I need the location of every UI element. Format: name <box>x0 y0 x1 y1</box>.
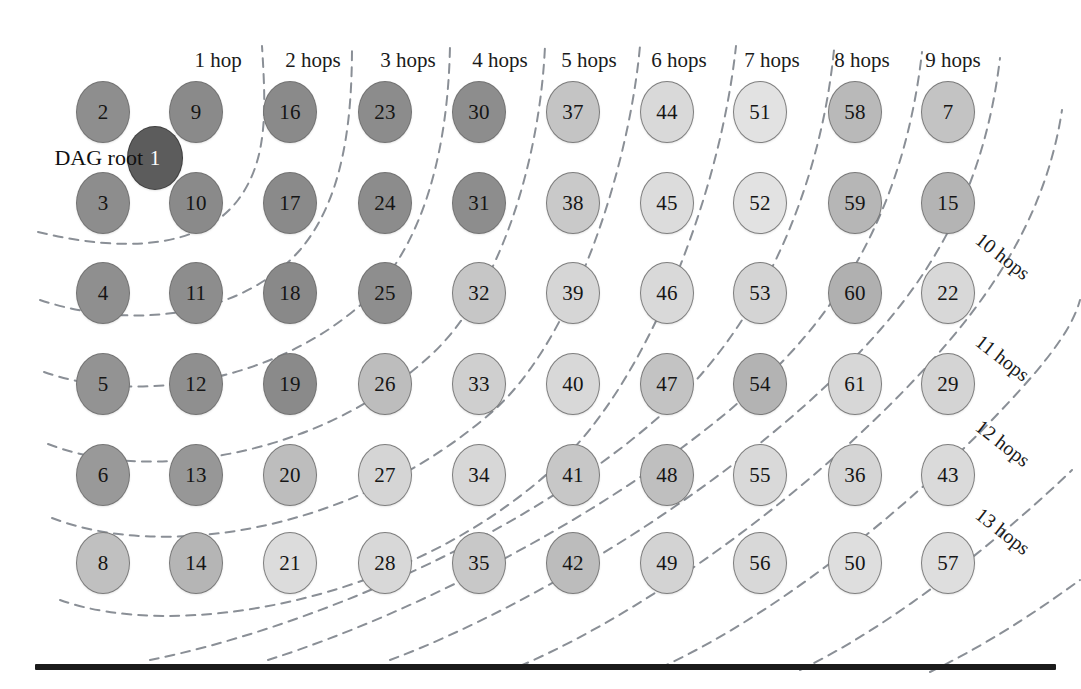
node-14[interactable]: 14 <box>169 532 223 594</box>
node-55[interactable]: 55 <box>733 444 787 506</box>
node-33[interactable]: 33 <box>452 353 506 415</box>
node-16[interactable]: 16 <box>263 81 317 143</box>
node-52[interactable]: 52 <box>733 172 787 234</box>
node-3[interactable]: 3 <box>76 172 130 234</box>
node-21[interactable]: 21 <box>263 532 317 594</box>
node-50[interactable]: 50 <box>828 532 882 594</box>
node-34[interactable]: 34 <box>452 444 506 506</box>
node-30[interactable]: 30 <box>452 81 506 143</box>
node-53[interactable]: 53 <box>733 262 787 324</box>
hop-label-4-hops: 4 hops <box>472 48 527 73</box>
node-19[interactable]: 19 <box>263 353 317 415</box>
node-48[interactable]: 48 <box>640 444 694 506</box>
node-11[interactable]: 11 <box>169 262 223 324</box>
node-36[interactable]: 36 <box>828 444 882 506</box>
node-59[interactable]: 59 <box>828 172 882 234</box>
node-23[interactable]: 23 <box>358 81 412 143</box>
node-9[interactable]: 9 <box>169 81 223 143</box>
node-47[interactable]: 47 <box>640 353 694 415</box>
node-25[interactable]: 25 <box>358 262 412 324</box>
node-51[interactable]: 51 <box>733 81 787 143</box>
hop-label-8-hops: 8 hops <box>834 48 889 73</box>
node-20[interactable]: 20 <box>263 444 317 506</box>
node-12[interactable]: 12 <box>169 353 223 415</box>
hop-label-3-hops: 3 hops <box>380 48 435 73</box>
node-44[interactable]: 44 <box>640 81 694 143</box>
node-18[interactable]: 18 <box>263 262 317 324</box>
hop-boundary-curves-layer <box>0 0 1081 689</box>
node-46[interactable]: 46 <box>640 262 694 324</box>
node-29[interactable]: 29 <box>921 353 975 415</box>
node-26[interactable]: 26 <box>358 353 412 415</box>
node-6[interactable]: 6 <box>76 444 130 506</box>
hop-label-6-hops: 6 hops <box>651 48 706 73</box>
node-42[interactable]: 42 <box>546 532 600 594</box>
node-7[interactable]: 7 <box>921 81 975 143</box>
hop-label-9-hops: 9 hops <box>925 48 980 73</box>
node-43[interactable]: 43 <box>921 444 975 506</box>
node-2[interactable]: 2 <box>76 81 130 143</box>
node-28[interactable]: 28 <box>358 532 412 594</box>
node-38[interactable]: 38 <box>546 172 600 234</box>
dag-root-caption: DAG root <box>54 145 143 171</box>
node-10[interactable]: 10 <box>169 172 223 234</box>
node-39[interactable]: 39 <box>546 262 600 324</box>
hop-label-7-hops: 7 hops <box>744 48 799 73</box>
node-13[interactable]: 13 <box>169 444 223 506</box>
hop-boundary-curve <box>520 110 1062 666</box>
node-41[interactable]: 41 <box>546 444 600 506</box>
node-58[interactable]: 58 <box>828 81 882 143</box>
node-22[interactable]: 22 <box>921 262 975 324</box>
hop-label-2-hops: 2 hops <box>285 48 340 73</box>
node-35[interactable]: 35 <box>452 532 506 594</box>
node-56[interactable]: 56 <box>733 532 787 594</box>
node-37[interactable]: 37 <box>546 81 600 143</box>
node-32[interactable]: 32 <box>452 262 506 324</box>
node-27[interactable]: 27 <box>358 444 412 506</box>
node-4[interactable]: 4 <box>76 262 130 324</box>
diagram-canvas: 2916233037445158731017243138455259154111… <box>0 0 1081 689</box>
node-31[interactable]: 31 <box>452 172 506 234</box>
node-5[interactable]: 5 <box>76 353 130 415</box>
node-45[interactable]: 45 <box>640 172 694 234</box>
node-61[interactable]: 61 <box>828 353 882 415</box>
bottom-rule <box>35 664 1056 670</box>
hop-label-5-hops: 5 hops <box>561 48 616 73</box>
node-60[interactable]: 60 <box>828 262 882 324</box>
node-17[interactable]: 17 <box>263 172 317 234</box>
node-15[interactable]: 15 <box>921 172 975 234</box>
node-24[interactable]: 24 <box>358 172 412 234</box>
node-8[interactable]: 8 <box>76 532 130 594</box>
node-49[interactable]: 49 <box>640 532 694 594</box>
hop-label-1-hop: 1 hop <box>194 48 241 73</box>
node-54[interactable]: 54 <box>733 353 787 415</box>
node-40[interactable]: 40 <box>546 353 600 415</box>
node-57[interactable]: 57 <box>921 532 975 594</box>
hop-boundary-curve <box>930 580 1080 672</box>
